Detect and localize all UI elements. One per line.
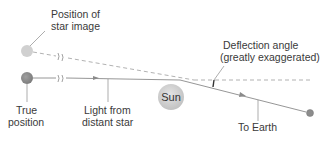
earth-icon	[307, 110, 314, 117]
star-image-leader	[29, 31, 45, 47]
deflection-angle-mark	[213, 80, 214, 87]
light-label-line1: Light from	[84, 104, 131, 116]
true-position-label-line2: position	[8, 116, 44, 128]
true-position-label-line1: True	[16, 104, 37, 116]
deflection-label-line1: Deflection angle	[223, 39, 298, 51]
deflection-leader-line	[214, 66, 224, 80]
light-deflection-diagram: Position of star image True position Lig…	[0, 0, 330, 142]
star-image-label-line2: star image	[51, 20, 100, 32]
deflection-label-line2: (greatly exaggerated)	[220, 51, 320, 63]
star-image-icon	[21, 45, 33, 57]
sun-label: Sun	[161, 91, 181, 103]
light-label-line2: distant star	[82, 116, 134, 128]
star-image-label-line1: Position of	[51, 8, 100, 20]
earth-label: To Earth	[238, 121, 277, 133]
true-star-icon	[21, 72, 33, 84]
